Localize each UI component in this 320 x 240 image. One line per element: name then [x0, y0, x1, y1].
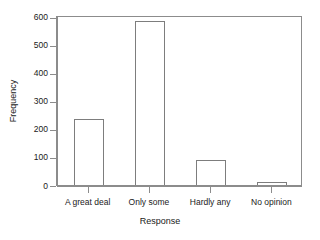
y-tick-label-1: 100: [34, 153, 48, 162]
x-tick-mark-2: [210, 187, 211, 193]
y-tick-label-4: 400: [34, 69, 48, 78]
y-tick-label-6: 600: [34, 13, 48, 22]
y-tick-mark-6: [50, 18, 56, 19]
bar-0: [74, 119, 104, 185]
y-axis-title: Frequency: [8, 58, 19, 101]
y-tick-mark-0: [50, 186, 56, 187]
y-tick-mark-5: [50, 46, 56, 47]
bar-2: [196, 160, 226, 185]
y-tick-mark-3: [50, 102, 56, 103]
x-axis-title: Response: [0, 216, 320, 227]
x-tick-label-0: A great deal: [65, 197, 110, 207]
x-axis-line: [57, 186, 302, 187]
x-tick-mark-3: [271, 187, 272, 193]
bar-3: [257, 182, 287, 185]
y-axis-line: [56, 16, 57, 186]
y-tick-label-5: 500: [34, 41, 48, 50]
y-tick-label-3: 300: [34, 97, 48, 106]
y-tick-mark-1: [50, 158, 56, 159]
x-tick-label-2: Hardly any: [190, 197, 231, 207]
bar-chart-figure: 0100200300400500600 A great dealOnly som…: [0, 0, 320, 240]
x-tick-label-1: Only some: [129, 197, 170, 207]
x-tick-label-3: No opinion: [251, 197, 292, 207]
bar-1: [135, 21, 165, 185]
plot-area: [57, 16, 302, 186]
y-tick-label-0: 0: [43, 182, 48, 191]
y-tick-mark-2: [50, 130, 56, 131]
y-tick-mark-4: [50, 74, 56, 75]
y-axis-title-text: Frequency: [8, 80, 19, 123]
y-tick-label-2: 200: [34, 125, 48, 134]
x-tick-mark-0: [88, 187, 89, 193]
x-tick-mark-1: [149, 187, 150, 193]
